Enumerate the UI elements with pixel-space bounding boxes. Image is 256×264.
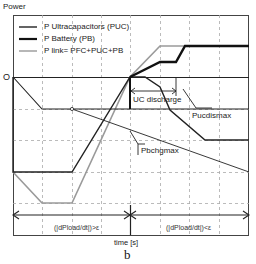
chart-canvas: [0, 0, 256, 264]
legend-plink: P link= PFC+PUC+PB: [44, 47, 123, 55]
series-pb: [130, 46, 249, 77]
pbchgmax-marker: [70, 107, 73, 110]
uc-discharge-arrow: [131, 77, 176, 96]
grid-horizontal: [13, 110, 249, 204]
pucdismax-leader: [183, 89, 212, 108]
zero-label: O: [3, 73, 10, 82]
uc-discharge-label: UC discharge: [133, 96, 181, 104]
x-axis-label: time [s]: [114, 239, 138, 247]
legend-puc: P Ultracapacitors (PUC): [44, 23, 129, 31]
legend-pb: P Battery (PB): [44, 35, 95, 43]
legend-swatches: [19, 27, 37, 51]
region-right-label: (|dPload/dt|)<ε: [166, 224, 211, 231]
pucdismax-label: Pucdismax: [192, 112, 231, 120]
subfigure-label: b: [124, 248, 131, 261]
region-arrows: [13, 205, 249, 235]
pbchgmax-leader: [130, 131, 145, 144]
series-plink: [13, 46, 249, 203]
pbchgmax-label: Pbchgmax: [141, 147, 179, 155]
y-axis-label: Power: [3, 3, 26, 11]
region-left-label: (|dPload/dt|)>ε: [54, 224, 99, 231]
